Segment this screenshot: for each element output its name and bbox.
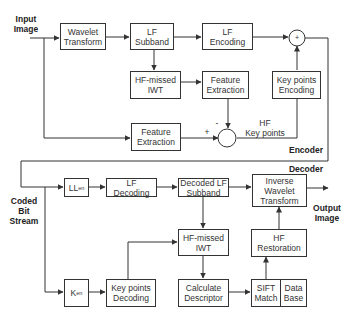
coded-bit-stream-label: Coded Bit Stream <box>6 196 42 226</box>
feature-extraction-box-top: Feature Extraction <box>202 71 249 99</box>
connection-wires <box>0 0 349 320</box>
key-points-decoding-box: Key points Decoding <box>106 279 156 307</box>
encoder-label: Encoder <box>285 145 327 155</box>
wavelet-transform-box: Wavelet Transform <box>60 23 106 50</box>
data-base-box: Data Base <box>280 279 307 307</box>
hf-restoration-box: HF Restoration <box>251 229 307 257</box>
lf-encoding-box: LF Encoding <box>202 23 253 50</box>
inverse-wavelet-transform-box: Inverse Wavelet Transform <box>252 174 307 207</box>
ll-en-box: LLen <box>64 178 89 197</box>
hf-missed-iwt-box-encoder: HF-missed IWT <box>130 71 181 99</box>
difference-node <box>218 129 236 147</box>
ll-en-main: LL <box>69 183 78 193</box>
calculate-descriptor-box: Calculate Descriptor <box>178 279 229 307</box>
lf-subband-box: LF Subband <box>130 23 174 50</box>
output-image-label: Output Image <box>308 203 346 223</box>
input-image-label: Input Image <box>8 14 44 34</box>
ll-en-sub: en <box>78 183 84 193</box>
decoder-label: Decoder <box>285 164 327 174</box>
minus-sign: - <box>213 118 221 128</box>
lf-decoding-box: LF Decoding <box>106 178 157 197</box>
hf-key-points-label: HF Key points <box>240 118 290 138</box>
k-en-sub: en <box>76 288 82 298</box>
sift-match-box: SIFT Match <box>251 279 281 307</box>
sum-symbol: + <box>292 33 302 43</box>
feature-extraction-box-bottom: Feature Extraction <box>131 123 181 151</box>
hf-missed-iwt-box-decoder: HF-missed IWT <box>178 229 229 256</box>
plus-sign: + <box>203 127 211 137</box>
key-points-encoding-box: Key points Encoding <box>272 71 321 99</box>
k-en-box: Ken <box>64 279 89 307</box>
decoded-lf-subband-box: Decoded LF Subband <box>178 178 229 197</box>
